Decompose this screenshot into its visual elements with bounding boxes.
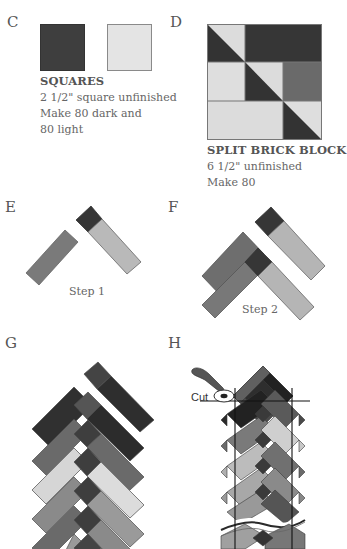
section-d-label: D <box>170 13 182 31</box>
step-1-diagram <box>0 190 170 300</box>
braid-assembly-diagram <box>0 330 170 549</box>
step-2-caption: Step 2 <box>242 303 278 316</box>
split-brick-line-1: 6 1/2" unfinished <box>207 159 302 175</box>
split-brick-heading: SPLIT BRICK BLOCK <box>207 143 346 157</box>
squares-line-3: 80 light <box>40 122 83 138</box>
section-c-label: C <box>7 13 18 31</box>
cut-label: Cut <box>191 391 208 403</box>
dark-square-swatch <box>40 24 85 71</box>
split-brick-line-2: Make 80 <box>207 175 256 191</box>
trim-braid-diagram <box>165 330 347 549</box>
squares-line-2: Make 80 dark and <box>40 106 142 122</box>
step-1-caption: Step 1 <box>69 285 105 298</box>
squares-heading: SQUARES <box>40 74 104 88</box>
split-brick-block-diagram <box>207 24 322 140</box>
light-square-swatch <box>107 24 152 71</box>
squares-line-1: 2 1/2" square unfinished <box>40 90 177 106</box>
step-2-diagram <box>165 190 347 340</box>
